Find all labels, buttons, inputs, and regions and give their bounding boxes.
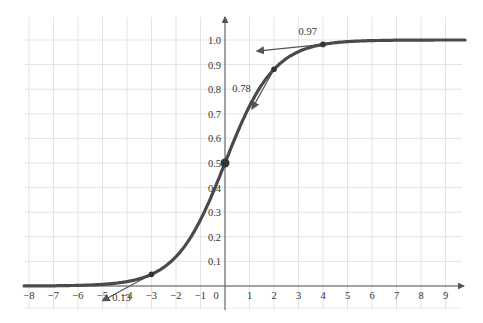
x-tick-label: 4 <box>320 290 326 301</box>
grid-lines <box>25 17 462 310</box>
x-tick-label: 0 <box>213 290 218 301</box>
x-tick-label: 8 <box>418 290 423 301</box>
x-tick-label: −3 <box>146 290 157 301</box>
y-tick-label: 0.8 <box>208 84 221 95</box>
curve-points <box>149 42 326 278</box>
y-tick-label: 0.2 <box>208 232 221 243</box>
x-tick-label: 6 <box>369 290 374 301</box>
x-tick-label: −8 <box>23 290 34 301</box>
y-tick-label: 0.1 <box>208 256 221 267</box>
x-tick-label: −5 <box>97 290 108 301</box>
y-tick-label: 0.7 <box>208 109 221 120</box>
x-tick-label: 9 <box>443 290 448 301</box>
x-tick-label: 1 <box>247 290 252 301</box>
x-tick-label: 7 <box>394 290 399 301</box>
y-tick-label: 0.6 <box>208 133 221 144</box>
x-tick-label: −6 <box>72 290 83 301</box>
y-tick-label: 0.5 <box>208 158 221 169</box>
x-tick-label: −1 <box>195 290 206 301</box>
curve-point <box>221 159 230 168</box>
curve-point <box>149 272 155 278</box>
curve-point <box>320 42 326 48</box>
slope-annotation: 0.78 <box>232 83 250 94</box>
y-tick-label: 1.0 <box>208 35 221 46</box>
x-tick-label: 3 <box>296 290 301 301</box>
y-tick-label: 0.3 <box>208 207 221 218</box>
slope-annotation: 0.97 <box>299 26 317 37</box>
sigmoid-chart: −8−7−6−5−4−3−2−101234567890.10.20.30.40.… <box>0 0 483 323</box>
x-tick-label: −2 <box>170 290 181 301</box>
x-tick-label: −7 <box>48 290 59 301</box>
x-tick-label: 5 <box>345 290 350 301</box>
slope-annotation: 0.13 <box>112 292 130 303</box>
y-tick-label: 0.9 <box>208 60 221 71</box>
x-tick-label: 2 <box>271 290 276 301</box>
curve-point <box>271 67 277 73</box>
